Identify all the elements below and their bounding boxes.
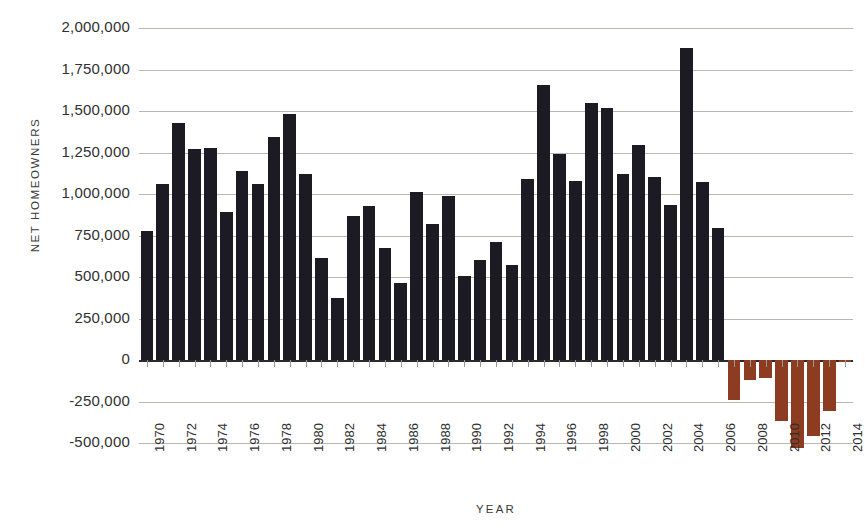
y-axis-tick-label: 1,250,000 [10,143,130,160]
bar-2000 [617,174,630,360]
y-axis-tick-label: 1,750,000 [10,60,130,77]
x-axis-tick-label: 2000 [628,423,643,452]
bar-2001 [632,145,645,360]
bar-1992 [490,242,503,360]
x-axis-tick-label: 1972 [184,423,199,452]
gridline [139,70,853,71]
bar-2002 [648,177,661,360]
x-axis-tick-labels: 1970197219741976197819801982198419861988… [139,452,853,500]
bar-1972 [172,123,185,360]
x-axis-tick-label: 1996 [564,423,579,452]
bar-2009 [759,360,772,378]
bar-1974 [204,148,217,360]
x-axis-tick-label: 1994 [533,423,548,452]
bar-2006 [712,228,725,360]
bar-1977 [252,184,265,360]
x-axis-tick-label: 2014 [850,423,865,452]
x-axis-tick-label: 1986 [406,423,421,452]
bar-1988 [426,224,439,360]
x-axis-tick-label: 2004 [691,423,706,452]
bar-1980 [299,174,312,360]
x-axis-tick-label: 1990 [469,423,484,452]
plot-area [139,28,853,443]
bar-1999 [601,108,614,360]
bar-1982 [331,298,344,360]
bar-1990 [458,276,471,360]
bar-1993 [506,265,519,360]
y-axis-tick-label: 500,000 [10,267,130,284]
y-axis-tick-label: 750,000 [10,226,130,243]
bar-1984 [363,206,376,360]
x-axis-tick-label: 1976 [247,423,262,452]
bar-2010 [775,360,788,421]
bar-1989 [442,196,455,360]
bar-1986 [394,283,407,360]
bar-1985 [379,248,392,360]
gridline [139,402,853,403]
x-axis-tick-label: 1970 [152,423,167,452]
gridline [139,153,853,154]
x-axis-tick-label: 1978 [279,423,294,452]
bar-1987 [410,192,423,360]
bar-1970 [141,231,154,360]
bar-1998 [585,103,598,360]
y-axis-tick-label: 0 [10,350,130,367]
y-axis-tick-label: 2,000,000 [10,18,130,35]
bar-2014 [839,360,852,362]
bar-2013 [823,360,836,411]
y-axis-tick-label: 1,500,000 [10,101,130,118]
gridline [139,111,853,112]
bar-1996 [553,154,566,360]
bar-1981 [315,258,328,360]
bar-2008 [744,360,757,380]
bar-2007 [728,360,741,400]
x-axis-tick-label: 1998 [596,423,611,452]
y-axis-tick-label: 1,000,000 [10,184,130,201]
bar-1994 [521,179,534,360]
x-axis-tick-label: 1974 [215,423,230,452]
y-axis-tick-label: -500,000 [10,433,130,450]
bar-2005 [696,182,709,360]
x-axis-tick-label: 2006 [723,423,738,452]
y-axis-tick-label: -250,000 [10,392,130,409]
x-axis-tick-label: 1988 [438,423,453,452]
bar-1975 [220,212,233,360]
y-axis-tick-label: 250,000 [10,309,130,326]
gridline [139,28,853,29]
bar-1991 [474,260,487,360]
x-axis-tick-label: 1984 [374,423,389,452]
bar-2004 [680,48,693,360]
x-axis-tick-label: 1980 [311,423,326,452]
bar-1971 [156,184,169,360]
x-axis-tick-label: 2002 [660,423,675,452]
x-axis-tick-label: 2012 [818,423,833,452]
x-axis-tick-label: 1992 [501,423,516,452]
bar-1978 [268,137,281,360]
bar-2003 [664,205,677,360]
x-axis-tick-label: 2008 [755,423,770,452]
bar-1976 [236,171,249,360]
bar-1979 [283,114,296,360]
x-axis-tick-label: 1982 [342,423,357,452]
x-axis-tick-label: 2010 [787,423,802,452]
bar-1973 [188,149,201,360]
y-axis-tick-labels: 2,000,0001,750,0001,500,0001,250,0001,00… [0,28,130,443]
x-axis-title: YEAR [140,503,852,515]
bar-1997 [569,181,582,360]
bar-1983 [347,216,360,360]
bar-1995 [537,85,550,360]
